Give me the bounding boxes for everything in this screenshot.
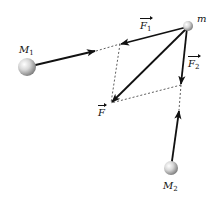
f1-vector	[121, 27, 187, 44]
label-f1-base: F	[140, 20, 147, 31]
label-f2-base: F	[188, 58, 195, 69]
label-m1-sub: 1	[29, 49, 33, 57]
label-f2-sub: 2	[195, 63, 199, 71]
label-m1: M1	[19, 45, 34, 57]
dashed-extension-m1	[96, 44, 120, 51]
m1-direction-arrow	[27, 51, 95, 67]
label-m: m	[197, 14, 206, 24]
label-f1: F1	[140, 21, 151, 33]
label-m2-sub: 2	[173, 185, 177, 193]
dashed-parallel-f1	[111, 85, 181, 103]
label-m-text: m	[197, 13, 206, 24]
label-f-text: F	[98, 108, 105, 118]
label-f: F	[98, 108, 105, 118]
label-m1-base: M	[19, 44, 29, 55]
dashed-parallel-f2	[111, 44, 120, 103]
dashed-extension-m2	[179, 85, 181, 110]
diagram-canvas	[0, 0, 213, 202]
label-m2: M2	[163, 181, 178, 193]
f2-vector	[181, 28, 187, 84]
force-diagram: m M1 M2 F1 F2 F	[0, 0, 213, 202]
mass-m2-sphere	[164, 161, 178, 175]
mass-m1-sphere	[18, 58, 36, 76]
resultant-f-vector	[112, 29, 186, 102]
mass-m-sphere	[183, 21, 193, 31]
label-f1-sub: 1	[147, 25, 151, 33]
label-f2: F2	[188, 59, 199, 71]
label-m2-base: M	[163, 180, 173, 191]
m2-direction-arrow	[171, 111, 179, 168]
